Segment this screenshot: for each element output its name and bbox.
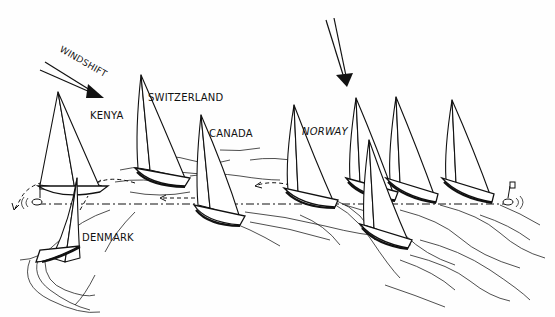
illustration [0,0,555,317]
boat-unlabeled-4 [442,100,494,203]
right-mark [503,182,523,209]
denmark-label: DENMARK [82,232,134,243]
boat-kenya [38,92,108,195]
boat-norway [284,105,338,208]
kenya-label: KENYA [90,110,124,121]
race-diagram: WINDSHIFT KENYA SWITZERLAND CANADA NORWA… [0,0,555,317]
norway-label: NORWAY [302,126,348,137]
switzerland-label: SWITZERLAND [148,92,223,103]
wind-arrow-icon [326,18,353,87]
boat-unlabeled-3 [386,97,438,203]
canada-label: CANADA [209,128,253,139]
